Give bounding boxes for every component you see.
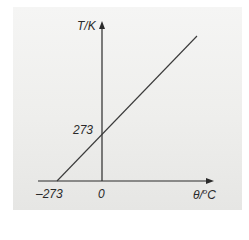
y-axis-arrow-icon (99, 21, 105, 29)
x-tick-0: 0 (98, 188, 105, 200)
y-axis-label: T/K (77, 20, 96, 32)
y-tick-273: 273 (73, 124, 93, 136)
x-tick-neg273: –273 (36, 188, 63, 200)
x-axis-label-unit: C (207, 188, 216, 202)
x-axis-label: θ/oC (193, 188, 216, 201)
x-axis-label-symbol: θ/ (193, 188, 203, 202)
x-axis-arrow-icon (206, 178, 214, 184)
data-line (57, 36, 197, 181)
